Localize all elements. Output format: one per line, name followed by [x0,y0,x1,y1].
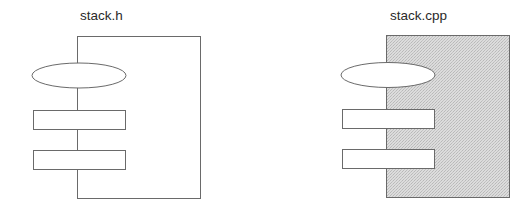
interface-rect-1 [34,111,126,130]
interface-ellipse [341,63,435,88]
interface-rect-2 [34,151,126,170]
interface-rect-2 [343,150,435,169]
interface-rect-1 [343,110,435,129]
module-stack-h [32,37,201,199]
diagram-canvas: stack.h stack.cpp [0,0,528,212]
module-stack-cpp [341,36,510,198]
interface-ellipse [32,63,126,88]
diagram-shapes [0,0,528,212]
